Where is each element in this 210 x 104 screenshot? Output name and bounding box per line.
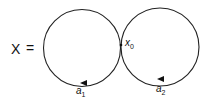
loop-a1-label: a1 — [76, 85, 85, 98]
basepoint-label: x0 — [125, 37, 134, 50]
basepoint-dot — [120, 44, 123, 47]
wedge-of-circles-diagram — [0, 0, 210, 104]
loop-a2-label: a2 — [156, 83, 165, 96]
arrow-a2-icon — [157, 76, 164, 82]
loop-a1-circle — [44, 10, 121, 87]
